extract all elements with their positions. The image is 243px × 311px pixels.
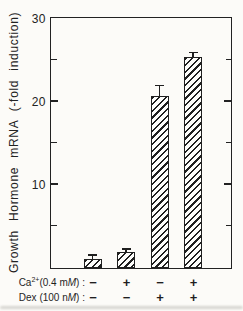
- condition-row-dex-label: Dex (100 nM) :: [0, 291, 85, 305]
- plot-area: [50, 17, 232, 269]
- error-bar-cap: [155, 85, 164, 87]
- y-axis-tick-left: [51, 100, 58, 102]
- y-axis-title: Growth Hormone mRNA (-fold induction): [7, 12, 21, 273]
- growth-hormone-mrna-figure: Growth Hormone mRNA (-fold induction) Ca…: [0, 0, 243, 311]
- bar: [117, 252, 135, 268]
- condition-row-ca-label: Ca2+(0.4 mM) :: [0, 276, 85, 290]
- scan-cutoff-text-artifact: [0, 306, 243, 309]
- error-bar-stem: [125, 250, 127, 253]
- condition-row-ca: Ca2+(0.4 mM) : −+−+: [0, 276, 243, 290]
- y-axis-tick-left: [51, 142, 57, 144]
- error-bar-cap: [88, 254, 97, 256]
- y-axis-tick-left: [51, 225, 57, 227]
- error-bar-stem: [92, 256, 94, 259]
- condition-sign: +: [183, 276, 205, 290]
- y-axis-tick-label: 10: [24, 178, 46, 192]
- y-axis-tick-right: [226, 142, 232, 144]
- condition-sign: −: [82, 291, 104, 305]
- error-bar-stem: [159, 86, 161, 96]
- y-axis-tick-right: [224, 183, 231, 185]
- y-axis-tick-right: [224, 100, 231, 102]
- error-bar-cap: [122, 248, 131, 250]
- error-bar-stem: [192, 53, 194, 57]
- condition-sign: −: [149, 276, 171, 290]
- condition-sign: +: [183, 291, 205, 305]
- y-axis-tick-label: 30: [24, 12, 46, 26]
- bar: [184, 57, 202, 268]
- y-axis-tick-label: 20: [24, 95, 46, 109]
- bar: [84, 259, 102, 268]
- y-axis-tick-right: [226, 59, 232, 61]
- condition-sign: −: [82, 276, 104, 290]
- condition-sign: +: [149, 291, 171, 305]
- error-bar-cap: [189, 52, 198, 54]
- y-axis-tick-right: [226, 225, 232, 227]
- condition-sign: +: [116, 276, 138, 290]
- bar: [151, 96, 169, 268]
- y-axis-tick-left: [51, 183, 58, 185]
- y-axis-tick-left: [51, 59, 57, 61]
- condition-row-dex: Dex (100 nM) : −−++: [0, 291, 243, 305]
- condition-sign: −: [116, 291, 138, 305]
